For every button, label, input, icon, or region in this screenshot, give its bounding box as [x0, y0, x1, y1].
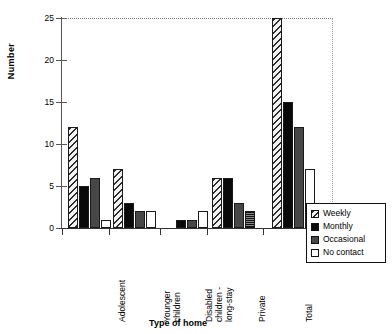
y-tick-label: 25 [30, 14, 54, 22]
y-tick-label: 0 [30, 224, 54, 232]
legend-label: No contact [323, 248, 364, 257]
bar [90, 178, 100, 228]
bar-group [272, 18, 316, 228]
y-tick-label: 5 [30, 182, 54, 190]
y-axis-line [61, 17, 62, 229]
legend-item[interactable]: Weekly [311, 207, 381, 220]
bar [198, 211, 208, 228]
bar [294, 127, 304, 228]
bar [101, 220, 111, 228]
chart-legend: WeeklyMonthlyOccasionalNo contact [306, 203, 386, 263]
bar-group [212, 18, 256, 228]
x-tick-mark [263, 229, 264, 235]
legend-swatch-icon [311, 210, 319, 218]
legend-swatch-icon [311, 223, 319, 231]
legend-label: Weekly [323, 209, 351, 218]
legend-rows: WeeklyMonthlyOccasionalNo contact [311, 207, 381, 259]
y-axis-title: Number [6, 26, 16, 96]
bar [124, 203, 134, 228]
bar-group [68, 18, 112, 228]
y-tick-label: 20 [30, 56, 54, 64]
legend-swatch-icon [311, 236, 319, 244]
legend-swatch-icon [311, 249, 319, 257]
bar [223, 178, 233, 228]
x-category-label: Adolescent [118, 280, 128, 322]
bar [212, 178, 222, 228]
bar-group [113, 18, 157, 228]
chart-figure: Number 0510152025 AdolescentYoungerchild… [0, 0, 392, 334]
bar [113, 169, 123, 228]
x-category-label: Private [258, 296, 268, 322]
bar [245, 211, 255, 228]
x-category-label: Total [305, 304, 315, 322]
x-category-label: long-stay [225, 288, 235, 323]
legend-item[interactable]: No contact [311, 246, 381, 259]
legend-label: Monthly [323, 222, 353, 231]
x-axis-line [61, 228, 333, 229]
bar [234, 203, 244, 228]
legend-label: Occasional [323, 235, 365, 244]
bar [176, 220, 186, 228]
x-tick-mark [109, 229, 110, 235]
bar [187, 220, 197, 228]
bar [146, 211, 156, 228]
y-tick-label: 15 [30, 98, 54, 106]
bar [272, 18, 282, 228]
bar [68, 127, 78, 228]
bar-group [165, 18, 209, 228]
y-tick-label: 10 [30, 140, 54, 148]
x-tick-mark [207, 229, 208, 235]
x-axis-title: Type of home [118, 318, 238, 328]
x-tick-mark [160, 229, 161, 235]
legend-item[interactable]: Monthly [311, 220, 381, 233]
bar [283, 102, 293, 228]
bar [79, 186, 89, 228]
legend-item[interactable]: Occasional [311, 233, 381, 246]
bar [135, 211, 145, 228]
x-tick-mark [62, 229, 63, 235]
